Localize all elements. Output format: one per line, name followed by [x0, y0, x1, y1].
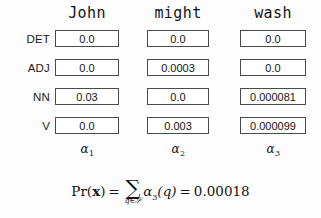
alpha-label-1: α1: [55, 140, 119, 160]
alpha-label-row: α1 α2 α3: [0, 140, 321, 158]
cell-nn-wash: 0.000081: [240, 88, 306, 105]
formula-equals-1: =: [105, 183, 122, 199]
cell-v-john: 0.0: [55, 117, 119, 134]
cell-det-john: 0.0: [55, 30, 119, 47]
alpha-label-2: α2: [147, 140, 209, 160]
sigma-icon: ∑: [125, 180, 141, 197]
formula-observation-variable: x: [92, 183, 100, 199]
column-header-word-2: might: [147, 3, 209, 23]
row-label-adj: ADJ: [0, 59, 50, 78]
row-label-det: DET: [0, 30, 50, 49]
alpha-symbol-2: α: [171, 142, 179, 156]
table-row: ADJ 0.0 0.0003 0.0: [0, 59, 321, 78]
table-row: V 0.0 0.003 0.000099: [0, 117, 321, 136]
table-row: DET 0.0 0.0 0.0: [0, 30, 321, 49]
row-label-v: V: [0, 117, 50, 136]
cell-det-might: 0.0: [147, 30, 209, 47]
cell-adj-wash: 0.0: [240, 59, 306, 76]
alpha-label-3: α3: [240, 140, 306, 160]
summation-index: q∈𝒮: [125, 197, 141, 205]
alpha-symbol-3: α: [266, 142, 274, 156]
formula-function-name: Pr: [71, 183, 87, 199]
word-header-row: John might wash: [0, 3, 321, 25]
trellis-figure: John might wash DET 0.0 0.0 0.0 ADJ 0.0 …: [0, 0, 321, 218]
cell-det-wash: 0.0: [240, 30, 306, 47]
alpha-subscript-2: 2: [180, 149, 185, 158]
table-row: NN 0.03 0.0 0.000081: [0, 88, 321, 107]
cell-nn-john: 0.03: [55, 88, 119, 105]
cell-adj-john: 0.0: [55, 59, 119, 76]
cell-v-might: 0.003: [147, 117, 209, 134]
summation-operator: ∑q∈𝒮: [125, 180, 141, 205]
alpha-symbol-1: α: [80, 142, 88, 156]
alpha-subscript-1: 1: [89, 149, 94, 158]
probability-formula: Pr(x)=∑q∈𝒮α3(q)=0.00018: [0, 180, 321, 205]
column-header-word-3: wash: [240, 3, 306, 23]
cell-adj-might: 0.0003: [147, 59, 209, 76]
formula-alpha-symbol: α: [143, 183, 152, 199]
cell-nn-might: 0.0: [147, 88, 209, 105]
formula-equals-2: =: [177, 183, 194, 199]
formula-result-value: 0.00018: [194, 183, 250, 199]
cell-v-wash: 0.000099: [240, 117, 306, 134]
row-label-nn: NN: [0, 88, 50, 107]
formula-alpha-argument: (q): [157, 183, 176, 199]
column-header-word-1: John: [55, 3, 119, 23]
alpha-subscript-3: 3: [275, 149, 280, 158]
